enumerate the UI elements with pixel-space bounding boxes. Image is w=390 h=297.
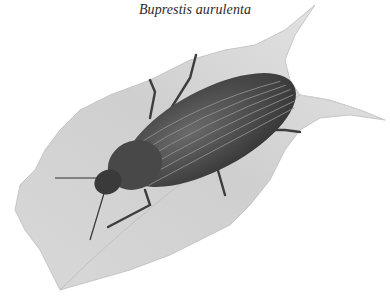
beetle-illustration <box>0 0 390 297</box>
